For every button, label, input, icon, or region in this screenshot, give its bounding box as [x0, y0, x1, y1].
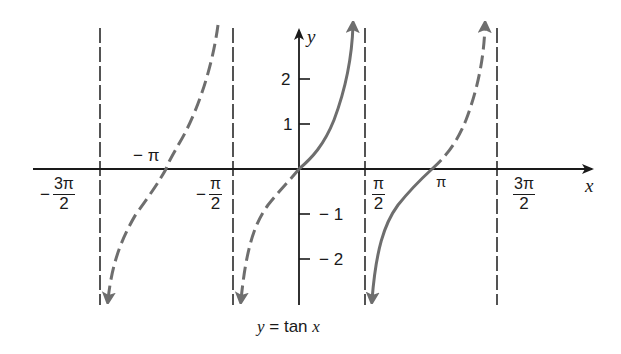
x-tick-label-neg-pi-2: − π2 — [196, 176, 222, 213]
y-tick-label-2: 2 — [281, 71, 290, 88]
x-tick-label-neg-3pi-2: − 3π2 — [40, 176, 75, 213]
chart-caption: y = tan x — [257, 317, 320, 337]
x-axis-label: x — [585, 176, 593, 195]
x-tick-label-neg-pi: − π — [133, 147, 159, 164]
curve-branch-right-upper — [432, 25, 485, 169]
curve-branch-center-lower — [241, 169, 299, 300]
y-tick-label-neg1: − 1 — [319, 206, 343, 223]
x-tick-label-pi-2: π2 — [372, 176, 385, 213]
y-axis-label: y — [307, 27, 315, 46]
curve-branch-left — [108, 25, 218, 300]
y-tick-label-neg2: − 2 — [319, 251, 343, 268]
x-tick-label-pi: π — [436, 174, 446, 189]
x-tick-label-3pi-2: 3π2 — [513, 176, 535, 213]
y-tick-label-1: 1 — [283, 116, 292, 133]
